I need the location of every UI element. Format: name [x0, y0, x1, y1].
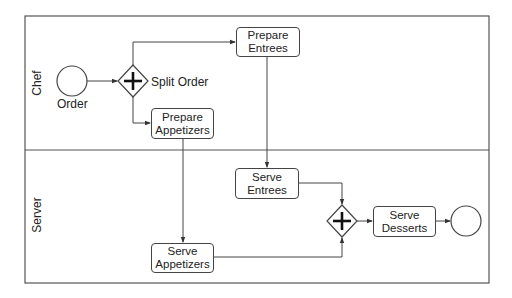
task-label-line2: Appetizers [155, 258, 209, 271]
task-serve-entrees[interactable]: Serve Entrees [235, 168, 299, 199]
task-label-line2: Entrees [247, 184, 287, 197]
task-label-line1: Serve [167, 245, 197, 258]
task-label-line2: Entrees [248, 42, 288, 55]
task-label-line1: Prepare [248, 29, 289, 42]
task-label-line2: Desserts [382, 222, 427, 235]
start-event-circle[interactable] [57, 66, 87, 96]
start-event-label: Order [57, 97, 88, 111]
lane-label-chef: Chef [30, 53, 44, 113]
task-prepare-appetizers[interactable]: Prepare Appetizers [151, 108, 214, 139]
lane-label-server: Server [30, 185, 44, 245]
task-label-line1: Serve [252, 171, 282, 184]
task-label-line1: Prepare [162, 111, 203, 124]
end-event-circle[interactable] [451, 206, 481, 236]
task-serve-desserts[interactable]: Serve Desserts [373, 206, 436, 237]
task-label-line2: Appetizers [155, 124, 209, 137]
split-gateway-label: Split Order [151, 75, 208, 89]
join-gateway[interactable] [327, 205, 357, 237]
task-prepare-entrees[interactable]: Prepare Entrees [236, 27, 300, 57]
split-gateway[interactable] [118, 65, 148, 97]
task-serve-appetizers[interactable]: Serve Appetizers [151, 243, 214, 273]
task-label-line1: Serve [389, 209, 419, 222]
